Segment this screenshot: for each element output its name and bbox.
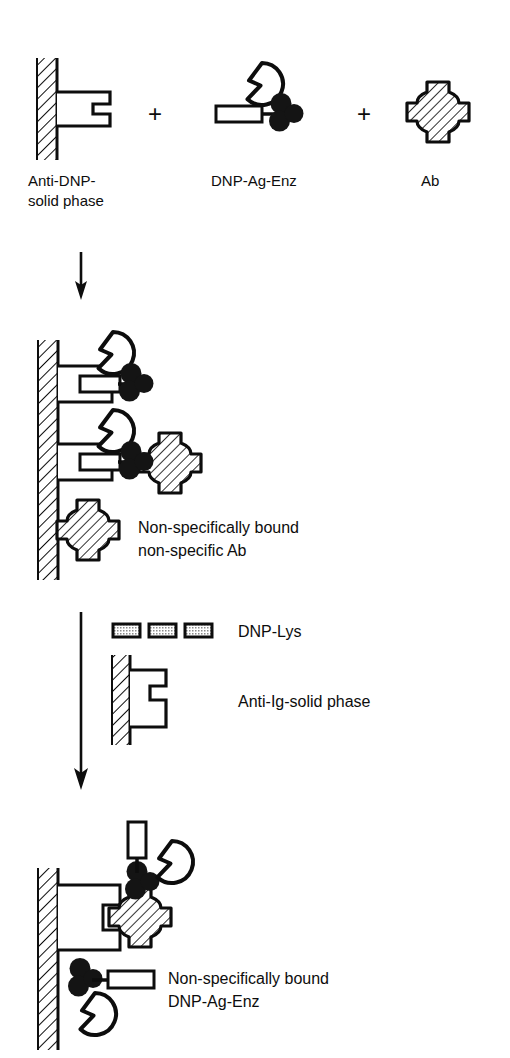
arrow-step-1 <box>75 252 87 300</box>
caption-panel2-line2: non-specific Ab <box>138 542 247 559</box>
label-dnp-lys: DNP-Lys <box>238 623 301 640</box>
icon-dnp-lys <box>113 624 212 637</box>
caption-panel4-line2: DNP-Ag-Enz <box>168 993 260 1010</box>
label-anti-dnp-line2: solid phase <box>28 192 104 209</box>
arrow-step-2 <box>74 612 88 790</box>
plus-operator-1: + <box>148 100 162 127</box>
icon-dnp-ag-enz <box>216 63 304 132</box>
label-dnp-ag-enz: DNP-Ag-Enz <box>211 172 297 189</box>
complex-ab-sandwich <box>58 822 193 950</box>
plus-operator-2: + <box>357 100 371 127</box>
label-anti-dnp-line1: Anti-DNP- <box>28 172 96 189</box>
label-anti-ig-solid-phase: Anti-Ig-solid phase <box>238 693 371 710</box>
caption-panel4-line1: Non-specifically bound <box>168 970 329 987</box>
complex-nonspecific-ab-on-wall <box>57 500 119 560</box>
complex-captured-dnp-ag-enz <box>58 332 154 402</box>
label-ab: Ab <box>421 172 439 189</box>
icon-anti-ig-solid-phase <box>112 655 166 745</box>
dnp-lys-bar <box>113 624 140 637</box>
solid-phase-wall-panel2 <box>38 340 58 580</box>
panel-final-result: Non-specifically bound DNP-Ag-Enz <box>38 822 329 1050</box>
bound-conjugate-top <box>125 822 193 900</box>
solid-phase-wall-panel4 <box>38 868 58 1050</box>
icon-anti-dnp-solid-phase <box>37 58 110 160</box>
dnp-lys-bar <box>149 624 176 637</box>
panel-step2-reagents: DNP-Lys Anti-Ig-solid phase <box>112 623 371 745</box>
caption-panel2-line1: Non-specifically bound <box>138 519 299 536</box>
panel-bound-complexes: Non-specifically bound non-specific Ab <box>38 332 299 580</box>
panel-reagents: Anti-DNP- solid phase + DNP-Ag-Enz + Ab <box>28 58 469 209</box>
assay-schematic-figure: Anti-DNP- solid phase + DNP-Ag-Enz + Ab <box>0 0 510 1058</box>
complex-nonspecific-conjugate-on-wall <box>68 958 154 1035</box>
complex-captured-conjugate-with-ab <box>58 410 201 493</box>
icon-ab <box>407 82 469 142</box>
dnp-lys-bar <box>185 624 212 637</box>
